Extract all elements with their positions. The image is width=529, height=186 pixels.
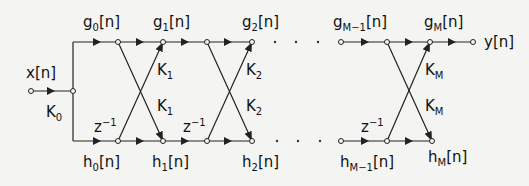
k1-lower-label: K1 xyxy=(157,99,173,117)
h0-label: h0[n] xyxy=(83,155,120,173)
output-label: y[n] xyxy=(484,35,514,50)
hM-label: hM[n] xyxy=(428,150,467,168)
k2-lower-label: K2 xyxy=(246,99,262,117)
hM1-label: hM−1[n] xyxy=(340,155,394,173)
lattice-diagram: x[n] K0 g0[n] g1[n] g2[n] gM−1[n] gM[n] … xyxy=(0,0,529,186)
delay-label-m: z−1 xyxy=(361,118,384,135)
gM1-label: gM−1[n] xyxy=(333,15,387,33)
kM-lower-label: KM xyxy=(425,99,443,117)
kM-upper-label: KM xyxy=(425,63,443,81)
gM-label: gM[n] xyxy=(424,15,463,33)
k0-label: K0 xyxy=(46,105,62,123)
delay-label-1: z−1 xyxy=(94,118,117,135)
g1-label: g1[n] xyxy=(153,15,190,33)
k2-upper-label: K2 xyxy=(246,63,262,81)
input-label: x[n] xyxy=(26,66,56,81)
g0-label: g0[n] xyxy=(83,15,120,33)
h2-label: h2[n] xyxy=(242,155,279,173)
g2-label: g2[n] xyxy=(242,15,279,33)
k1-upper-label: K1 xyxy=(157,63,173,81)
h1-label: h1[n] xyxy=(152,155,189,173)
delay-label-2: z−1 xyxy=(183,118,206,135)
